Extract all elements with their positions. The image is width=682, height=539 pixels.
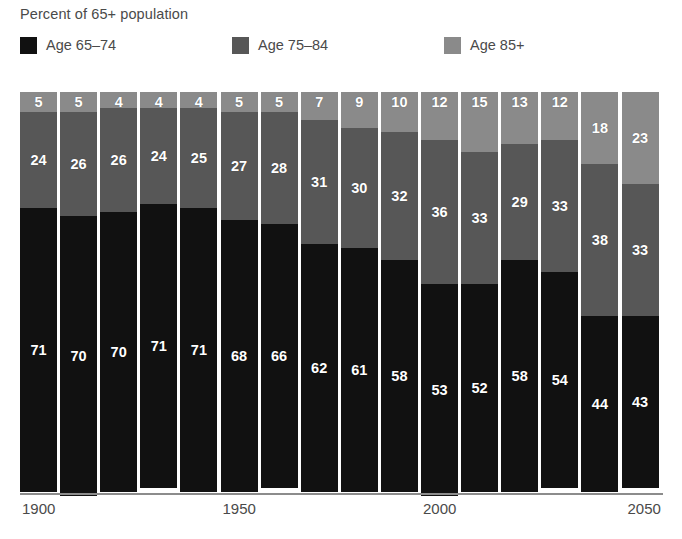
bar-segment-value: 58 bbox=[391, 369, 407, 384]
bar-segment-value: 10 bbox=[391, 95, 407, 110]
bar-segment-value: 5 bbox=[34, 95, 42, 110]
legend-item-label: Age 65–74 bbox=[46, 37, 116, 53]
bar-segment-value: 18 bbox=[592, 121, 608, 136]
bar-segment-value: 66 bbox=[271, 349, 287, 364]
bar-segment-1980-age-85: 9 bbox=[341, 92, 378, 128]
bar-1970[interactable]: 73162 bbox=[301, 92, 338, 492]
bar-segment-1970-age-65-74: 62 bbox=[301, 244, 338, 492]
bar-segment-value: 52 bbox=[472, 381, 488, 396]
bar-2040[interactable]: 183844 bbox=[581, 92, 618, 492]
bar-segment-value: 71 bbox=[191, 343, 207, 358]
bar-segment-2030-age-65-74: 54 bbox=[541, 272, 578, 488]
legend-item-2[interactable]: Age 85+ bbox=[444, 34, 524, 56]
x-axis-tick-label-2050: 2050 bbox=[628, 500, 661, 517]
bar-segment-1910-age-75-84: 26 bbox=[60, 112, 97, 216]
bar-segment-value: 58 bbox=[512, 369, 528, 384]
bar-segment-1970-age-75-84: 31 bbox=[301, 120, 338, 244]
bar-segment-1940-age-65-74: 71 bbox=[180, 208, 217, 492]
bar-1960[interactable]: 52866 bbox=[261, 92, 298, 492]
bar-segment-1940-age-75-84: 25 bbox=[180, 108, 217, 208]
bar-segment-2040-age-65-74: 44 bbox=[581, 316, 618, 492]
bar-segment-value: 61 bbox=[351, 363, 367, 378]
bar-segment-1900-age-65-74: 71 bbox=[20, 208, 57, 492]
bar-2020[interactable]: 132958 bbox=[501, 92, 538, 492]
bar-1950[interactable]: 52768 bbox=[221, 92, 258, 492]
bar-segment-2050-age-65-74: 43 bbox=[622, 316, 659, 488]
bar-segment-1940-age-85: 4 bbox=[180, 92, 217, 108]
bar-1940[interactable]: 42571 bbox=[180, 92, 217, 492]
legend-item-label: Age 85+ bbox=[470, 37, 524, 53]
bar-segment-value: 53 bbox=[431, 383, 447, 398]
bar-segment-1920-age-85: 4 bbox=[100, 92, 137, 108]
bar-segment-value: 71 bbox=[30, 343, 46, 358]
bar-segment-value: 29 bbox=[512, 195, 528, 210]
bar-segment-value: 24 bbox=[30, 153, 46, 168]
chart-title: Percent of 65+ population bbox=[20, 6, 188, 22]
bar-segment-value: 71 bbox=[151, 339, 167, 354]
bar-segment-2050-age-85: 23 bbox=[622, 92, 659, 184]
bar-segment-1990-age-65-74: 58 bbox=[381, 260, 418, 492]
bar-segment-1960-age-85: 5 bbox=[261, 92, 298, 112]
legend-swatch-age-75-84 bbox=[232, 37, 249, 54]
bar-1900[interactable]: 52471 bbox=[20, 92, 57, 492]
bar-segment-value: 26 bbox=[111, 153, 127, 168]
bar-segment-value: 68 bbox=[231, 349, 247, 364]
bar-segment-1900-age-75-84: 24 bbox=[20, 112, 57, 208]
bar-segment-1920-age-75-84: 26 bbox=[100, 108, 137, 212]
bar-segment-value: 70 bbox=[111, 345, 127, 360]
bar-segment-value: 4 bbox=[115, 95, 123, 108]
bar-1930[interactable]: 42471 bbox=[140, 92, 177, 492]
bar-segment-value: 38 bbox=[592, 233, 608, 248]
bar-segment-value: 36 bbox=[431, 205, 447, 220]
bar-segment-value: 9 bbox=[355, 95, 363, 110]
bar-segment-1910-age-85: 5 bbox=[60, 92, 97, 112]
bar-segment-value: 33 bbox=[632, 243, 648, 258]
bar-segment-value: 44 bbox=[592, 397, 608, 412]
chart-plot-area: 5247152670426704247142571527685286673162… bbox=[20, 92, 662, 492]
bar-2050[interactable]: 233343 bbox=[622, 92, 659, 492]
bar-1920[interactable]: 42670 bbox=[100, 92, 137, 492]
bar-2030[interactable]: 123354 bbox=[541, 92, 578, 492]
bar-segment-2020-age-75-84: 29 bbox=[501, 144, 538, 260]
bar-segment-2030-age-85: 12 bbox=[541, 92, 578, 140]
bar-segment-value: 62 bbox=[311, 361, 327, 376]
bar-segment-value: 33 bbox=[472, 211, 488, 226]
bar-segment-value: 43 bbox=[632, 395, 648, 410]
bar-2000[interactable]: 123653 bbox=[421, 92, 458, 492]
x-axis-tick-label-1950: 1950 bbox=[223, 500, 256, 517]
bar-segment-value: 4 bbox=[155, 95, 163, 108]
bar-segment-value: 26 bbox=[71, 157, 87, 172]
x-axis-tick-label-1900: 1900 bbox=[22, 500, 55, 517]
bar-segment-value: 31 bbox=[311, 175, 327, 190]
legend-swatch-age-85-plus bbox=[444, 37, 461, 54]
bar-segment-1970-age-85: 7 bbox=[301, 92, 338, 120]
bar-segment-1930-age-85: 4 bbox=[140, 92, 177, 108]
bar-segment-value: 4 bbox=[195, 95, 203, 108]
bar-segment-1950-age-85: 5 bbox=[221, 92, 258, 112]
bar-segment-value: 12 bbox=[552, 95, 568, 110]
x-axis-tick-label-2000: 2000 bbox=[423, 500, 456, 517]
bar-segment-1910-age-65-74: 70 bbox=[60, 216, 97, 496]
legend-item-label: Age 75–84 bbox=[258, 37, 328, 53]
bar-1990[interactable]: 103258 bbox=[381, 92, 418, 492]
bar-segment-2010-age-85: 15 bbox=[461, 92, 498, 152]
bar-segment-1950-age-65-74: 68 bbox=[221, 220, 258, 492]
bar-segment-value: 32 bbox=[391, 189, 407, 204]
bar-segment-2000-age-65-74: 53 bbox=[421, 284, 458, 496]
legend-item-1[interactable]: Age 75–84 bbox=[232, 34, 328, 56]
bar-segment-value: 27 bbox=[231, 159, 247, 174]
bar-segment-value: 7 bbox=[315, 95, 323, 110]
bar-segment-value: 5 bbox=[75, 95, 83, 110]
bar-segment-1960-age-65-74: 66 bbox=[261, 224, 298, 488]
bar-segment-2030-age-75-84: 33 bbox=[541, 140, 578, 272]
bar-1980[interactable]: 93061 bbox=[341, 92, 378, 492]
legend-item-0[interactable]: Age 65–74 bbox=[20, 34, 116, 56]
bar-segment-value: 33 bbox=[552, 199, 568, 214]
bar-1910[interactable]: 52670 bbox=[60, 92, 97, 492]
bar-segment-2020-age-85: 13 bbox=[501, 92, 538, 144]
bar-segment-2050-age-75-84: 33 bbox=[622, 184, 659, 316]
bar-segment-value: 25 bbox=[191, 151, 207, 166]
bar-segment-1920-age-65-74: 70 bbox=[100, 212, 137, 492]
bar-segment-2000-age-85: 12 bbox=[421, 92, 458, 140]
bar-2010[interactable]: 153352 bbox=[461, 92, 498, 492]
